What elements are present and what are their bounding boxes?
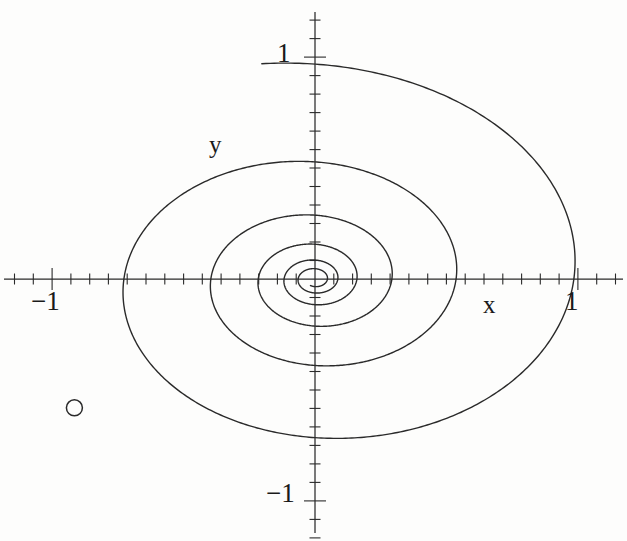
y-axis-name-label: y: [209, 132, 222, 157]
figure-canvas: 1 −1 1 −1 x y: [0, 0, 627, 541]
axes-group: [4, 12, 623, 533]
x-axis-tick-label-positive-one: 1: [565, 288, 579, 315]
x-axis-tick-label-negative-one: −1: [31, 288, 60, 315]
spiral-trajectory-curve: [123, 63, 575, 438]
phase-portrait-plot: [0, 0, 627, 541]
y-axis-tick-label-positive-one: 1: [277, 40, 291, 67]
trajectory-point-marker: [66, 400, 82, 416]
y-axis-tick-label-negative-one: −1: [266, 480, 295, 507]
x-axis-name-label: x: [483, 292, 496, 317]
